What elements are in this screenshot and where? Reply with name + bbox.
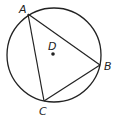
vertex-label-a: A [18,3,27,16]
center-label-d: D [48,40,56,53]
segment-ca [28,14,44,101]
vertex-label-b: B [104,60,112,73]
geometry-diagram: A B C D [0,0,117,117]
vertex-label-c: C [39,105,47,117]
segment-ab [28,14,100,65]
